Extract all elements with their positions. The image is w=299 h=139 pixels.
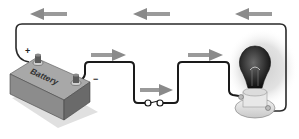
wire-middle (77, 62, 239, 103)
negative-sign: − (93, 74, 98, 84)
arrow-left-icon (133, 8, 170, 20)
positive-sign: + (25, 46, 30, 56)
arrow-right-icon (140, 84, 173, 96)
circuit-diagram (0, 0, 299, 139)
arrow-left-icon (30, 8, 67, 20)
arrow-left-icon (235, 8, 272, 20)
arrow-right-icon (188, 49, 223, 61)
arrow-right-icon (91, 49, 126, 61)
arrows-middle (91, 49, 223, 96)
arrows-top (30, 8, 272, 20)
switch (145, 100, 163, 106)
